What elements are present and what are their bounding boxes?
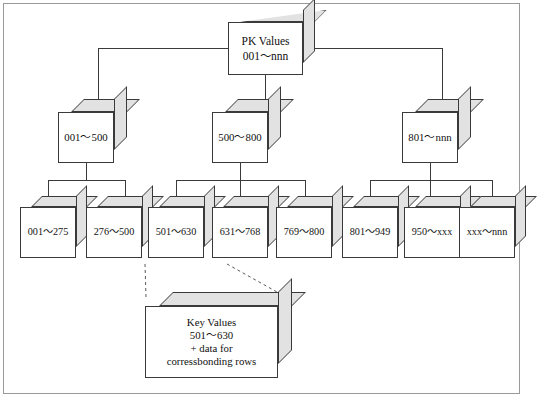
leaf-501-630-label: 501～630 xyxy=(156,226,197,238)
node-level2-500-800-label: 500～800 xyxy=(218,131,261,144)
node-level2-500-800[interactable]: 500～800 xyxy=(212,112,268,163)
detail-line4: corressbonding rows xyxy=(167,355,257,368)
detail-line3: + data for xyxy=(190,342,232,355)
leaf-631-768-label: 631～768 xyxy=(220,226,261,238)
leaf-631-768-face: 631～768 xyxy=(212,207,268,258)
leaf-001-275-top-face xyxy=(31,196,98,207)
node-level2-001-500[interactable]: 001～500 xyxy=(58,112,114,163)
node-level2-801-nnn-label: 801～nnn xyxy=(408,131,451,144)
node-level2-001-500-label: 001～500 xyxy=(64,131,107,144)
leaf-276-500-face: 276～500 xyxy=(86,207,142,258)
detail-key-values-side-face xyxy=(278,278,292,364)
detail-key-values-box[interactable]: Key Values 501～630 + data for corressbon… xyxy=(145,306,278,378)
leaf-276-500-label: 276～500 xyxy=(94,226,135,238)
leaf-501-630[interactable]: 501～630 xyxy=(148,207,204,258)
node-level2-500-800-face: 500～800 xyxy=(212,112,268,163)
leaf-001-275[interactable]: 001～275 xyxy=(20,207,76,258)
node-level2-801-nnn[interactable]: 801～nnn xyxy=(402,112,458,163)
leaf-801-949[interactable]: 801～949 xyxy=(342,207,398,258)
leaf-276-500-top-face xyxy=(97,196,164,207)
leaf-631-768[interactable]: 631～768 xyxy=(212,207,268,258)
leaf-501-630-top-face xyxy=(159,196,226,207)
leaf-950-xxx[interactable]: 950～xxx xyxy=(404,207,460,258)
detail-line1: Key Values xyxy=(187,316,236,329)
leaf-801-949-top-face xyxy=(353,196,420,207)
leaf-001-275-face: 001～275 xyxy=(20,207,76,258)
node-root-face: PK Values 001～nnn xyxy=(228,22,303,75)
leaf-801-949-label: 801～949 xyxy=(350,226,391,238)
node-level2-801-nnn-face: 801～nnn xyxy=(402,112,458,163)
detail-line2: 501～630 xyxy=(190,329,233,342)
leaf-501-630-face: 501～630 xyxy=(148,207,204,258)
leaf-801-949-face: 801～949 xyxy=(342,207,398,258)
node-root[interactable]: PK Values 001～nnn xyxy=(228,22,303,75)
node-level2-001-500-face: 001～500 xyxy=(58,112,114,163)
leaf-276-500[interactable]: 276～500 xyxy=(86,207,142,258)
leaf-001-275-label: 001～275 xyxy=(28,226,69,238)
leaf-xxx-nnn-top-face xyxy=(470,196,537,207)
leaf-950-xxx-label: 950～xxx xyxy=(412,226,453,238)
leaf-950-xxx-face: 950～xxx xyxy=(404,207,460,258)
leaf-769-800-top-face xyxy=(287,196,354,207)
leaf-769-800-face: 769～800 xyxy=(276,207,332,258)
leaf-769-800-label: 769～800 xyxy=(284,226,325,238)
node-root-line1: PK Values xyxy=(241,34,289,48)
leaf-xxx-nnn-face: xxx～nnn xyxy=(459,207,515,258)
leaf-769-800[interactable]: 769～800 xyxy=(276,207,332,258)
leaf-631-768-top-face xyxy=(223,196,290,207)
detail-key-values-face: Key Values 501～630 + data for corressbon… xyxy=(145,306,278,378)
node-root-line2: 001～nnn xyxy=(243,49,289,63)
leaf-xxx-nnn[interactable]: xxx～nnn xyxy=(459,207,515,258)
leaf-xxx-nnn-label: xxx～nnn xyxy=(467,226,508,238)
